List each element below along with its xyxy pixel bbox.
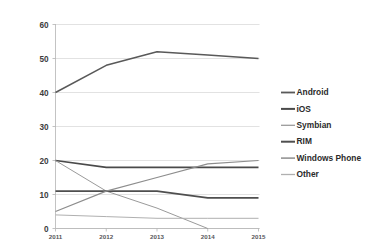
y-axis-tick-label: 40 bbox=[39, 89, 49, 98]
y-axis-tick-label: 30 bbox=[39, 123, 49, 132]
x-axis-tick-label: 2014 bbox=[201, 233, 215, 240]
legend-label-android[interactable]: Android bbox=[297, 87, 329, 97]
chart-legend: AndroidiOSSymbianRIMWindows PhoneOther bbox=[281, 87, 361, 179]
y-axis-tick-label: 10 bbox=[39, 191, 49, 200]
x-axis-tick-label: 2013 bbox=[150, 233, 164, 240]
legend-label-rim[interactable]: RIM bbox=[297, 136, 312, 146]
series-line-other bbox=[56, 215, 259, 218]
data-series-group bbox=[56, 52, 259, 229]
x-axis-tick-label: 2011 bbox=[49, 233, 63, 240]
y-axis-tick-label: 60 bbox=[39, 21, 49, 30]
y-axis-tick-labels: 0102030405060 bbox=[39, 21, 49, 234]
legend-label-ios[interactable]: iOS bbox=[297, 104, 312, 114]
chart-container: 0102030405060 20112012201320142015 Andro… bbox=[0, 0, 368, 240]
series-line-ios bbox=[56, 161, 259, 168]
line-chart-plot: 0102030405060 20112012201320142015 Andro… bbox=[0, 0, 368, 240]
legend-label-windows-phone[interactable]: Windows Phone bbox=[297, 153, 362, 163]
x-axis-tick-label: 2015 bbox=[252, 233, 266, 240]
legend-label-other[interactable]: Other bbox=[297, 169, 320, 179]
y-axis-tick-label: 20 bbox=[39, 157, 49, 166]
series-line-android bbox=[56, 52, 259, 93]
legend-label-symbian[interactable]: Symbian bbox=[297, 120, 332, 130]
x-axis-tick-labels: 20112012201320142015 bbox=[49, 233, 266, 240]
x-axis-tick-label: 2012 bbox=[99, 233, 113, 240]
y-axis-tick-label: 50 bbox=[39, 55, 49, 64]
